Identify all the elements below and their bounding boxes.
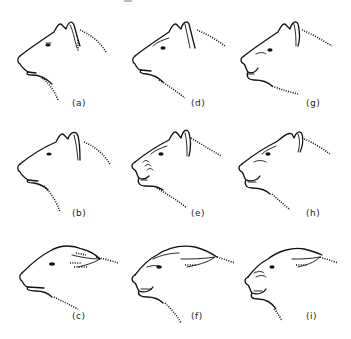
wolf-head-erect-ears-open-snarl bbox=[234, 120, 351, 230]
wolf-head-erect-ears-relaxed bbox=[0, 120, 117, 230]
panel-e: (e) bbox=[117, 120, 234, 230]
panel-c: (c) bbox=[0, 229, 117, 339]
wolf-head-erect-ears-snarl bbox=[117, 120, 234, 230]
wolf-head-erect-ears-bared-teeth bbox=[234, 10, 351, 120]
panel-h: (h) bbox=[234, 120, 351, 230]
panel-b: (b) bbox=[0, 120, 117, 230]
wolf-head-flattened-ears-open-snarl bbox=[234, 229, 351, 339]
wolf-head-flattened-ears-snarl bbox=[117, 229, 234, 339]
panel-label: (e) bbox=[191, 208, 205, 218]
panel-label: (i) bbox=[306, 311, 317, 321]
wolf-head-erect-ears-alert bbox=[117, 10, 234, 120]
panel-d: (d) bbox=[117, 10, 234, 120]
panel-i: (i) bbox=[234, 229, 351, 339]
panel-label: (c) bbox=[72, 311, 85, 321]
wolf-expressions-figure: (a) (b) (c) bbox=[0, 0, 351, 339]
panel-label: (h) bbox=[306, 208, 320, 218]
panel-label: (d) bbox=[191, 98, 205, 108]
scan-artifact bbox=[124, 0, 132, 2]
wolf-head-flattened-ears bbox=[0, 229, 117, 339]
panel-label: (f) bbox=[191, 311, 203, 321]
panel-label: (g) bbox=[306, 98, 320, 108]
panel-g: (g) bbox=[234, 10, 351, 120]
panel-label: (a) bbox=[72, 98, 86, 108]
wolf-head-erect-ears-closed-mouth bbox=[0, 10, 117, 120]
panel-f: (f) bbox=[117, 229, 234, 339]
panel-label: (b) bbox=[72, 208, 86, 218]
panel-a: (a) bbox=[0, 10, 117, 120]
